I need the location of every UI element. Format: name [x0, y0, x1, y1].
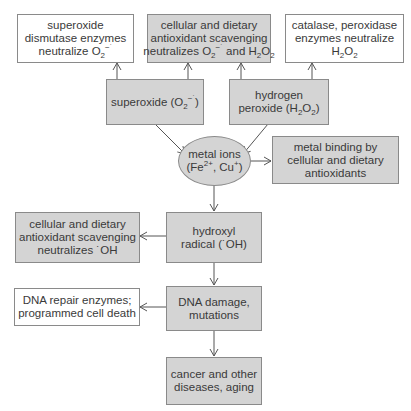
- h2o2-line-2: peroxide (H2O2): [238, 102, 319, 115]
- cancer-line-2: diseases, aging: [171, 381, 257, 394]
- scav-top-line-1: cellular and dietary: [143, 19, 274, 32]
- dna-repair-line-2: programmed cell death: [18, 307, 136, 320]
- hydroxyl-line-1: hydroxyl: [181, 225, 247, 238]
- superoxide-box: superoxide (O2−˙): [106, 79, 204, 125]
- hydroxyl-radical-box: hydroxyl radical (˙OH): [166, 212, 262, 263]
- metal-binding-line-3: antioxidants: [287, 167, 384, 180]
- sod-box: superoxide dismutase enzymes neutralize …: [17, 14, 134, 63]
- hydrogen-peroxide-box: hydrogen peroxide (H2O2): [229, 79, 329, 125]
- cancer-line-1: cancer and other: [171, 368, 257, 381]
- catalase-line-1: catalase, peroxidase: [292, 19, 397, 32]
- scav-top-line-2: antioxidant scavenging: [143, 32, 274, 45]
- dna-damage-line-2: mutations: [178, 309, 250, 322]
- catalase-line-3: H2O2: [292, 45, 397, 58]
- metal-binding-box: metal binding by cellular and dietary an…: [272, 136, 399, 184]
- scav-oh-line-3: neutralizes ˙OH: [19, 244, 136, 257]
- scav-oh-line-1: cellular and dietary: [19, 218, 136, 231]
- catalase-box: catalase, peroxidase enzymes neutralize …: [285, 14, 404, 63]
- metal-ions-ellipse: metal ions (Fe2+, Cu+): [178, 136, 251, 186]
- dna-repair-line-1: DNA repair enzymes;: [18, 294, 136, 307]
- superoxide-label: superoxide (O2−˙): [111, 96, 199, 109]
- dna-repair-box: DNA repair enzymes; programmed cell deat…: [14, 288, 140, 326]
- h2o2-line-1: hydrogen: [238, 89, 319, 102]
- sod-line-1: superoxide: [25, 19, 127, 32]
- dna-damage-line-1: DNA damage,: [178, 296, 250, 309]
- catalase-line-2: enzymes neutralize: [292, 32, 397, 45]
- scavenging-oh-box: cellular and dietary antioxidant scaveng…: [15, 212, 140, 263]
- metal-binding-line-1: metal binding by: [287, 141, 384, 154]
- cancer-box: cancer and other diseases, aging: [166, 357, 262, 405]
- scav-top-line-3: neutralizes O2−˙ and H2O2: [143, 45, 274, 58]
- sod-line-3: neutralize O2−˙: [25, 45, 127, 58]
- metal-ions-line-2: (Fe2+, Cu+): [187, 161, 243, 174]
- hydroxyl-line-2: radical (˙OH): [181, 238, 247, 251]
- dna-damage-box: DNA damage, mutations: [166, 286, 262, 331]
- scav-oh-line-2: antioxidant scavenging: [19, 231, 136, 244]
- metal-binding-line-2: cellular and dietary: [287, 154, 384, 167]
- scavenging-top-box: cellular and dietary antioxidant scaveng…: [147, 14, 271, 63]
